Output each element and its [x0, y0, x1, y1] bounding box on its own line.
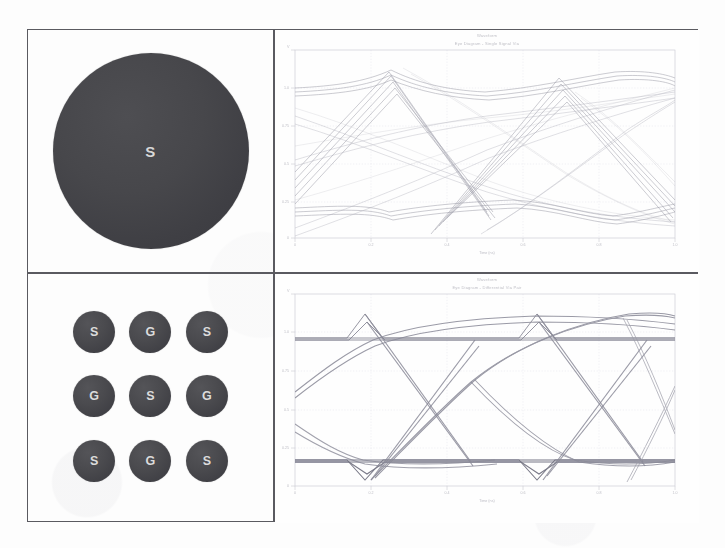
eye-diagram-dense-chart: Waveform Eye Diagram - Single Signal Via… — [275, 30, 699, 272]
via-label: S — [203, 454, 211, 468]
via-r1c2: G — [186, 375, 228, 417]
figure-root: S Waveform Eye Diagram - Single Signal V… — [0, 0, 725, 548]
via-r0c1: G — [129, 311, 171, 353]
eye-diagram-clean-svg — [275, 274, 699, 523]
x-tick-label: 0.8 — [597, 491, 602, 495]
via-label: G — [202, 389, 212, 403]
x-tick-label: 0 — [294, 491, 296, 495]
via-r2c2: S — [186, 440, 228, 482]
via-label: S — [146, 389, 154, 403]
y-axis-label: V — [287, 45, 289, 49]
via-r2c0: S — [73, 440, 115, 482]
quadrant-single-via: S — [28, 30, 273, 272]
x-tick-label: 0.2 — [369, 243, 374, 247]
y-tick-label: 0.25 — [275, 200, 289, 204]
via-label: S — [145, 143, 156, 160]
y-tick-label: 1.0 — [275, 330, 289, 334]
x-tick-label: 1.0 — [673, 243, 678, 247]
x-tick-label: 0.8 — [597, 243, 602, 247]
x-tick-label: 0 — [294, 243, 296, 247]
signal-via-circle: S — [53, 53, 249, 249]
x-tick-label: 1.0 — [673, 491, 678, 495]
y-tick-label: 0.5 — [275, 162, 289, 166]
via-label: S — [90, 325, 98, 339]
via-label: S — [90, 454, 98, 468]
x-tick-label: 0.4 — [445, 491, 450, 495]
via-array-grid: S G S G S G S G S — [28, 274, 273, 523]
eye-diagram-dense-svg — [275, 30, 699, 272]
x-tick-label: 0.4 — [445, 243, 450, 247]
y-tick-label: 0 — [275, 484, 289, 488]
via-label: G — [89, 389, 99, 403]
via-r0c2: S — [186, 311, 228, 353]
quadrant-via-array: S G S G S G S G S — [28, 274, 273, 523]
y-tick-label: 0.75 — [275, 124, 289, 128]
x-tick-label: 0.6 — [521, 243, 526, 247]
y-tick-label: 0.75 — [275, 369, 289, 373]
figure-frame: S Waveform Eye Diagram - Single Signal V… — [27, 29, 698, 522]
via-r1c0: G — [73, 375, 115, 417]
y-tick-label: 0.5 — [275, 408, 289, 412]
via-label: G — [146, 454, 156, 468]
chart-title: Eye Diagram - Differential Via Pair — [275, 285, 699, 290]
x-axis-label: Time (ns) — [275, 499, 699, 503]
eye-diagram-clean-chart: Waveform Eye Diagram - Differential Via … — [275, 274, 699, 523]
quadrant-eye-diagram-clean: Waveform Eye Diagram - Differential Via … — [275, 274, 699, 523]
via-label: S — [203, 325, 211, 339]
via-r1c1: S — [129, 375, 171, 417]
quadrant-eye-diagram-dense: Waveform Eye Diagram - Single Signal Via… — [275, 30, 699, 272]
x-axis-label: Time (ns) — [275, 251, 699, 255]
via-r0c0: S — [73, 311, 115, 353]
y-tick-label: 1.0 — [275, 86, 289, 90]
chart-title: Eye Diagram - Single Signal Via — [275, 41, 699, 46]
single-via-stack: S — [28, 30, 273, 272]
y-tick-label: 0 — [275, 236, 289, 240]
x-tick-label: 0.6 — [521, 491, 526, 495]
eye-traces-group — [295, 313, 675, 482]
chart-window-label: Waveform — [275, 33, 699, 38]
chart-window-label: Waveform — [275, 277, 699, 282]
via-r2c1: G — [129, 440, 171, 482]
via-label: G — [146, 325, 156, 339]
y-tick-label: 0.25 — [275, 446, 289, 450]
x-tick-label: 0.2 — [369, 491, 374, 495]
y-axis-label: V — [287, 289, 289, 293]
eye-traces-group — [295, 68, 675, 236]
